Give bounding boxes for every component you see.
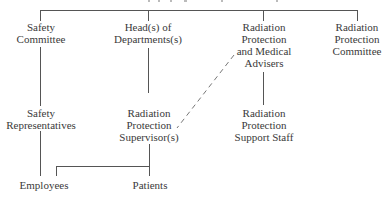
node-label-line: and Medical (237, 45, 292, 57)
node-rp-medical-advisers: Radiation Protection and Medical Adviser… (237, 21, 292, 69)
node-employees: Employees (20, 179, 69, 191)
node-rp-supervisors: Radiation Protection Supervisor(s) (119, 107, 178, 143)
node-label-line: Protection (333, 33, 382, 45)
node-label-line: Support Staff (235, 131, 294, 143)
node-label-line: Committee (333, 45, 382, 57)
node-heads-of-departments: Head(s) of Departments(s) (114, 21, 182, 45)
node-label-line: Radiation (333, 21, 382, 33)
node-label-line: Employees (20, 179, 69, 191)
node-safety-representatives: Safety Representatives (6, 107, 76, 131)
node-label-line: Protection (237, 33, 292, 45)
node-label-line: Safety (6, 107, 76, 119)
dashed-advisory-link (177, 55, 234, 128)
node-label-line: Protection (119, 119, 178, 131)
node-rp-support-staff: Radiation Protection Support Staff (235, 107, 294, 143)
node-label-line: Radiation (119, 107, 178, 119)
node-label-line: Safety (17, 21, 66, 33)
node-label-line: Protection (235, 119, 294, 131)
node-label-line: Advisers (237, 57, 292, 69)
node-label-line: Radiation (235, 107, 294, 119)
node-label-line: Patients (133, 179, 168, 191)
node-patients: Patients (133, 179, 168, 191)
node-label-line: Radiation (237, 21, 292, 33)
node-rp-committee: Radiation Protection Committee (333, 21, 382, 57)
node-label-line: Head(s) of (114, 21, 182, 33)
node-safety-committee: Safety Committee (17, 21, 66, 45)
node-label-line: Departments(s) (114, 33, 182, 45)
node-label-line: Supervisor(s) (119, 131, 178, 143)
node-label-line: Committee (17, 33, 66, 45)
node-label-line: Representatives (6, 119, 76, 131)
